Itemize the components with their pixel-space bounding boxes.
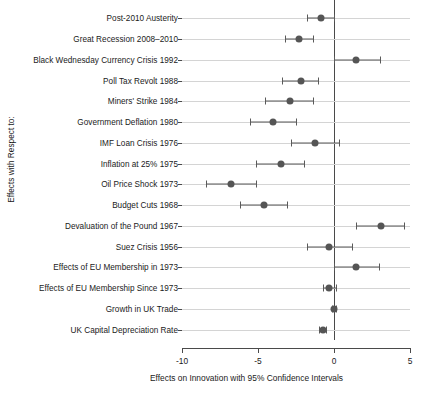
category-label: Oil Price Shock 1973: [10, 180, 178, 189]
category-label: Effects of EU Membership Since 1973: [10, 284, 178, 293]
ci-upper-cap: [313, 36, 314, 43]
x-axis-tick: [258, 348, 259, 353]
y-axis-tick: [178, 205, 182, 206]
ci-lower-cap: [291, 139, 292, 146]
ci-upper-cap: [352, 243, 353, 250]
data-point: [286, 98, 293, 105]
category-label: Budget Cuts 1968: [10, 201, 178, 210]
y-axis-tick: [178, 101, 182, 102]
category-label: Miners' Strike 1984: [10, 97, 178, 106]
y-axis-tick: [178, 60, 182, 61]
data-point: [318, 15, 325, 22]
data-point: [353, 264, 360, 271]
category-label: Effects of EU Membership in 1973: [10, 263, 178, 272]
data-point: [378, 222, 385, 229]
category-label: Suez Crisis 1956: [10, 242, 178, 251]
gridline: [182, 247, 410, 248]
data-point: [325, 285, 332, 292]
gridline: [182, 288, 410, 289]
x-axis-tick-label: -5: [254, 356, 261, 366]
y-axis-tick: [178, 330, 182, 331]
x-axis-tick-label: 0: [332, 356, 337, 366]
y-axis-tick: [178, 122, 182, 123]
ci-lower-cap: [356, 222, 357, 229]
data-point: [326, 243, 333, 250]
ci-lower-cap: [307, 243, 308, 250]
data-point: [296, 36, 303, 43]
ci-upper-cap: [304, 160, 305, 167]
y-axis-tick: [178, 18, 182, 19]
ci-upper-cap: [287, 202, 288, 209]
y-axis-tick: [178, 226, 182, 227]
ci-lower-cap: [240, 202, 241, 209]
ci-upper-cap: [336, 285, 337, 292]
x-axis-tick: [410, 348, 411, 353]
x-axis-line: [182, 348, 410, 349]
data-point: [261, 202, 268, 209]
data-point: [331, 305, 338, 312]
x-axis-tick: [182, 348, 183, 353]
x-axis-label-text: Effects on Innovation with 95% Confidenc…: [150, 373, 343, 383]
category-label: Devaluation of the Pound 1967: [10, 221, 178, 230]
category-label: Growth in UK Trade: [10, 304, 178, 313]
data-point: [353, 56, 360, 63]
y-axis-tick: [178, 164, 182, 165]
ci-upper-cap: [334, 15, 335, 22]
data-point: [227, 181, 234, 188]
ci-lower-cap: [282, 77, 283, 84]
ci-lower-cap: [206, 181, 207, 188]
gridline: [182, 18, 410, 19]
x-axis-label: Effects on Innovation with 95% Confidenc…: [0, 373, 427, 383]
ci-lower-cap: [307, 15, 308, 22]
plot-area: [182, 8, 410, 340]
gridline: [182, 330, 410, 331]
category-label: Post-2010 Austerity: [10, 14, 178, 23]
x-axis-tick: [334, 348, 335, 353]
ci-lower-cap: [265, 98, 266, 105]
x-axis-tick-label: 5: [408, 356, 413, 366]
ci-lower-cap: [256, 160, 257, 167]
category-label-column: Post-2010 AusterityGreat Recession 2008–…: [10, 8, 178, 340]
ci-upper-cap: [318, 77, 319, 84]
data-point: [297, 77, 304, 84]
ci-lower-cap: [334, 264, 335, 271]
ci-upper-cap: [296, 119, 297, 126]
ci-upper-cap: [380, 56, 381, 63]
category-label: Poll Tax Revolt 1988: [10, 76, 178, 85]
category-label: UK Capital Depreciation Rate: [10, 325, 178, 334]
y-axis-tick: [178, 309, 182, 310]
ci-upper-cap: [339, 139, 340, 146]
y-axis-tick: [178, 288, 182, 289]
y-axis-tick: [178, 39, 182, 40]
y-axis-tick: [178, 184, 182, 185]
y-axis-tick: [178, 247, 182, 248]
ci-lower-cap: [285, 36, 286, 43]
ci-upper-cap: [326, 326, 327, 333]
ci-lower-cap: [323, 285, 324, 292]
data-point: [319, 326, 326, 333]
ci-upper-cap: [379, 264, 380, 271]
category-label: Great Recession 2008–2010: [10, 35, 178, 44]
category-label: IMF Loan Crisis 1976: [10, 138, 178, 147]
y-axis-tick: [178, 81, 182, 82]
gridline: [182, 205, 410, 206]
y-axis-tick: [178, 143, 182, 144]
gridline: [182, 309, 410, 310]
x-axis-tick-label: -10: [176, 356, 188, 366]
ci-lower-cap: [250, 119, 251, 126]
ci-upper-cap: [404, 222, 405, 229]
data-point: [312, 139, 319, 146]
category-label: Black Wednesday Currency Crisis 1992: [10, 55, 178, 64]
category-label: Inflation at 25% 1975: [10, 159, 178, 168]
category-label: Government Deflation 1980: [10, 118, 178, 127]
ci-upper-cap: [256, 181, 257, 188]
ci-upper-cap: [313, 98, 314, 105]
y-axis-tick: [178, 267, 182, 268]
data-point: [277, 160, 284, 167]
forest-plot-figure: Effects with Respect to: Post-2010 Auste…: [0, 0, 427, 394]
data-point: [270, 119, 277, 126]
ci-lower-cap: [334, 56, 335, 63]
